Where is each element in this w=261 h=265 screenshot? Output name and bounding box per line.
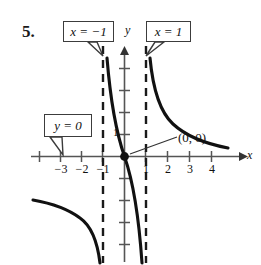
- x-axis-label: x: [247, 148, 252, 163]
- curve-group: [33, 58, 228, 263]
- y-axis-label: y: [125, 23, 130, 38]
- leader-line-origin: [130, 137, 177, 154]
- y-axis-unit-label: 1: [113, 126, 119, 138]
- origin-point-label: (0, 0): [178, 130, 206, 146]
- y-axis-arrow: [120, 46, 129, 55]
- x-tick-label-neg-2: −2: [74, 162, 90, 177]
- callout-x-equals-one: x = 1: [146, 21, 191, 42]
- graph-svg: [0, 0, 261, 265]
- origin-point-marker: [120, 152, 129, 161]
- x-tick-label-neg-3: −3: [53, 162, 69, 177]
- curve-branch-left: [33, 200, 100, 263]
- x-tick-label-1: 1: [138, 162, 154, 177]
- x-tick-label-2: 2: [160, 162, 176, 177]
- x-tick-label-4: 4: [204, 162, 220, 177]
- leader-line-x-neg-1: [88, 42, 103, 56]
- leader-line-y-zero: [50, 137, 63, 155]
- callout-y-equals-zero: y = 0: [44, 114, 92, 137]
- callout-x-equals-neg-one: x = −1: [63, 21, 114, 42]
- x-tick-label-neg-1: −1: [95, 162, 111, 177]
- leader-line-x-pos-1: [146, 42, 164, 56]
- x-tick-label-3: 3: [182, 162, 198, 177]
